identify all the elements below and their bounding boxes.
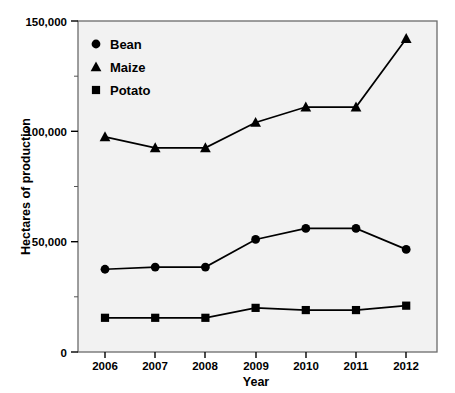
datapoint-potato-2009 xyxy=(252,304,260,312)
x-axis-title: Year xyxy=(243,375,270,389)
y-axis-label-50000: 50,000 xyxy=(32,236,67,248)
chart-figure: 150,000 100,000 50,000 0 Hectares of pro… xyxy=(0,0,455,393)
x-axis-label-2011: 2011 xyxy=(344,360,370,372)
x-axis-label-2008: 2008 xyxy=(192,360,218,372)
y-axis-label-0: 0 xyxy=(61,347,67,359)
datapoint-bean-2011 xyxy=(352,224,361,233)
legend-label-potato: Potato xyxy=(110,83,151,98)
y-axis-label-150000: 150,000 xyxy=(25,16,67,28)
datapoint-potato-2012 xyxy=(402,302,410,310)
x-axis-label-2012: 2012 xyxy=(393,360,419,372)
datapoint-potato-2011 xyxy=(352,306,360,314)
datapoint-bean-2008 xyxy=(201,263,210,272)
datapoint-bean-2012 xyxy=(402,245,411,254)
legend-label-bean: Bean xyxy=(110,37,142,52)
x-axis-label-2007: 2007 xyxy=(142,360,168,372)
datapoint-potato-2010 xyxy=(302,306,310,314)
x-axis-label-2009: 2009 xyxy=(243,360,269,372)
datapoint-potato-2006 xyxy=(101,314,109,322)
line-chart: 150,000 100,000 50,000 0 Hectares of pro… xyxy=(0,0,455,393)
x-axis-ticks xyxy=(105,352,406,358)
x-axis-label-2010: 2010 xyxy=(293,360,319,372)
legend-marker-square-icon xyxy=(92,86,100,94)
datapoint-bean-2009 xyxy=(251,235,260,244)
y-axis-title: Hectares of production xyxy=(19,118,33,255)
datapoint-bean-2006 xyxy=(101,265,110,274)
legend-marker-circle-icon xyxy=(92,40,101,49)
datapoint-bean-2010 xyxy=(301,224,310,233)
datapoint-potato-2008 xyxy=(201,314,209,322)
datapoint-bean-2007 xyxy=(151,263,160,272)
datapoint-potato-2007 xyxy=(151,314,159,322)
legend-label-maize: Maize xyxy=(110,60,145,75)
x-axis-label-2006: 2006 xyxy=(92,360,118,372)
